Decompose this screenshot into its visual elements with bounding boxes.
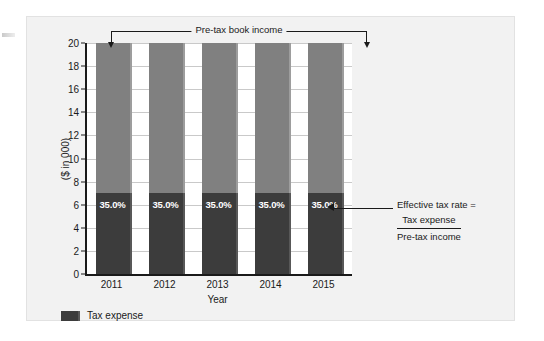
annotation-leader-arrowhead-icon	[327, 203, 334, 211]
x-axis-tick-labels: 20112012201320142015	[85, 279, 350, 290]
y-axis-tick-label: 8	[73, 176, 79, 187]
bar-2015[interactable]: 35.0%	[308, 43, 344, 274]
y-axis-tick-label: 18	[68, 61, 79, 72]
annotation-arrowhead-left-icon	[108, 42, 114, 48]
x-axis-tick-label: 2015	[297, 279, 350, 290]
y-axis-tick-label: 16	[68, 84, 79, 95]
bar-2014[interactable]: 35.0%	[255, 43, 291, 274]
bar-segment-tax-expense: 35.0%	[202, 193, 238, 274]
y-axis-tick-label: 10	[68, 153, 79, 164]
y-axis-ticks: 02468101214161820	[47, 43, 85, 274]
bar-2012[interactable]: 35.0%	[149, 43, 185, 274]
bar-slot: 35.0%	[299, 43, 352, 274]
bars-layer: 35.0%35.0%35.0%35.0%35.0%	[87, 43, 352, 274]
annotation-leader-line	[333, 208, 393, 209]
annotation-etr-numerator: Tax expense	[397, 213, 461, 229]
bar-slot: 35.0%	[193, 43, 246, 274]
plot-area: 35.0%35.0%35.0%35.0%35.0%	[85, 43, 352, 276]
bar-slot: 35.0%	[140, 43, 193, 274]
bar-value-label: 35.0%	[202, 199, 236, 210]
bar-slot: 35.0%	[246, 43, 299, 274]
legend-swatch-tax-expense	[61, 311, 80, 321]
annotation-etr-fraction: Tax expense Pre-tax income	[397, 213, 461, 244]
y-axis-tick-label: 6	[73, 199, 79, 210]
bar-segment-pretax-remainder	[149, 43, 185, 193]
stacked-bar-chart: ($ in 000) 02468101214161820 35.0%35.0%3…	[27, 17, 514, 320]
y-axis-tick-label: 12	[68, 130, 79, 141]
annotation-pretax-label: Pre-tax book income	[191, 24, 286, 35]
y-axis-tick-label: 4	[73, 222, 79, 233]
x-axis-tick-label: 2011	[85, 279, 138, 290]
scan-binding-artifact	[2, 33, 15, 37]
bar-2011[interactable]: 35.0%	[96, 43, 132, 274]
legend-label-tax-expense: Tax expense	[87, 310, 143, 321]
bar-value-label: 35.0%	[96, 199, 130, 210]
x-axis-tick-label: 2014	[244, 279, 297, 290]
x-axis-tick-label: 2012	[138, 279, 191, 290]
bar-slot: 35.0%	[87, 43, 140, 274]
annotation-etr-denominator: Pre-tax income	[397, 229, 461, 244]
bar-value-label: 35.0%	[255, 199, 289, 210]
y-axis: ($ in 000) 02468101214161820	[47, 43, 85, 274]
bar-2013[interactable]: 35.0%	[202, 43, 238, 274]
annotation-arrowhead-right-icon	[364, 42, 370, 48]
exhibit-panel: ($ in 000) 02468101214161820 35.0%35.0%3…	[26, 16, 515, 321]
annotation-etr-text: Effective tax rate = Tax expense Pre-tax…	[397, 198, 507, 243]
bar-segment-tax-expense: 35.0%	[96, 193, 132, 274]
bar-segment-tax-expense: 35.0%	[149, 193, 185, 274]
bar-segment-pretax-remainder	[308, 43, 344, 193]
bar-segment-tax-expense: 35.0%	[255, 193, 291, 274]
bar-segment-pretax-remainder	[202, 43, 238, 193]
bar-segment-tax-expense: 35.0%	[308, 193, 344, 274]
y-axis-tick-label: 20	[68, 38, 79, 49]
bar-value-label: 35.0%	[149, 199, 183, 210]
y-axis-tick-label: 0	[73, 269, 79, 280]
y-axis-tick-label: 14	[68, 107, 79, 118]
x-axis-title: Year	[85, 294, 350, 305]
bar-segment-pretax-remainder	[96, 43, 132, 193]
y-axis-tick-label: 2	[73, 245, 79, 256]
scan-page: ($ in 000) 02468101214161820 35.0%35.0%3…	[0, 0, 544, 341]
chart-legend: Tax expense	[61, 310, 143, 321]
bar-segment-pretax-remainder	[255, 43, 291, 193]
annotation-pretax-book-income: Pre-tax book income	[111, 25, 367, 49]
annotation-etr-line1: Effective tax rate =	[397, 198, 507, 212]
x-axis-tick-label: 2013	[191, 279, 244, 290]
